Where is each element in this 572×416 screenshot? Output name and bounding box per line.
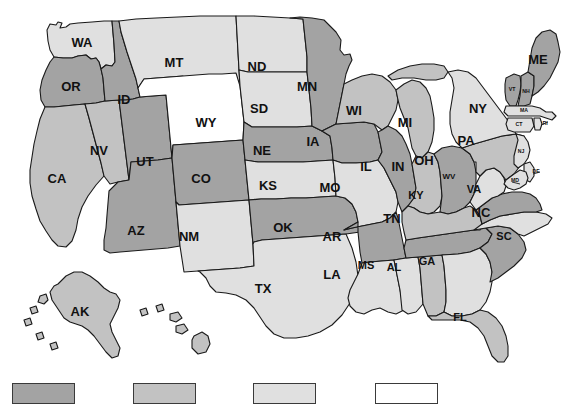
legend-swatch-1[interactable] xyxy=(12,383,75,404)
state-RI[interactable] xyxy=(534,118,542,130)
legend xyxy=(0,372,572,416)
state-KS[interactable] xyxy=(245,160,336,200)
legend-swatch-4[interactable] xyxy=(375,383,438,404)
state-AL[interactable] xyxy=(418,255,446,316)
state-FL[interactable] xyxy=(428,310,508,362)
legend-swatch-3[interactable] xyxy=(253,383,316,404)
state-NM[interactable] xyxy=(176,200,254,272)
state-WI[interactable] xyxy=(336,74,398,130)
state-HI[interactable] xyxy=(140,304,210,354)
state-CT[interactable] xyxy=(506,118,534,132)
map-figure: WA OR CA NV ID MT WY UT AZ CO NM ND SD N… xyxy=(0,0,572,416)
state-OR[interactable] xyxy=(40,55,105,107)
us-choropleth-map: WA OR CA NV ID MT WY UT AZ CO NM ND SD N… xyxy=(0,0,572,372)
legend-swatch-2[interactable] xyxy=(133,383,196,404)
state-ND[interactable] xyxy=(236,16,307,72)
state-SD[interactable] xyxy=(239,70,312,127)
state-AK[interactable] xyxy=(24,272,120,358)
state-CO[interactable] xyxy=(172,140,249,205)
state-GA[interactable] xyxy=(442,248,492,316)
